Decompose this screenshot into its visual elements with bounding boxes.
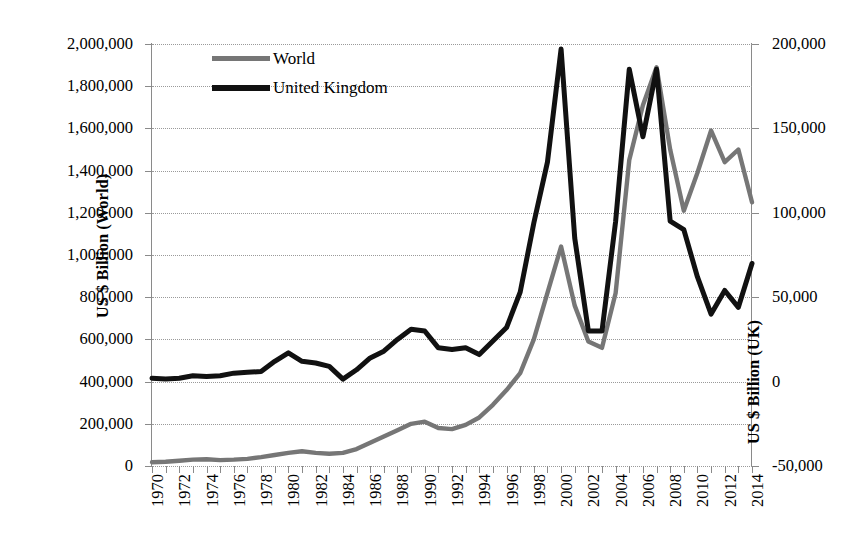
- x-tick-label: 2002: [584, 474, 604, 507]
- y-axis-right-title: US $ Billion (UK): [744, 272, 764, 492]
- x-tick: [657, 466, 658, 473]
- legend-label-world: World: [273, 49, 315, 69]
- y-tick-left: [145, 86, 152, 87]
- y-tick-label-right: 0: [772, 372, 780, 392]
- x-tick-label: 1990: [421, 474, 441, 507]
- x-tick: [329, 466, 330, 473]
- y-tick-right: [752, 128, 759, 129]
- x-tick-label: 1970: [148, 474, 168, 507]
- y-tick-left: [145, 297, 152, 298]
- x-tick-label: 2004: [612, 474, 632, 507]
- x-tick-label: 2012: [721, 474, 741, 507]
- y-tick-left: [145, 213, 152, 214]
- x-tick: [466, 466, 467, 473]
- y-tick-label-left: 200,000: [79, 414, 133, 434]
- y-tick-left: [145, 171, 152, 172]
- x-tick: [207, 466, 208, 473]
- y-axis-right-labels: -50,000050,000100,000150,000200,000: [762, 0, 862, 534]
- x-tick-label: 1974: [203, 474, 223, 507]
- x-tick-label: 1980: [284, 474, 304, 507]
- x-tick-label: 1986: [366, 474, 386, 507]
- x-tick: [670, 466, 671, 473]
- y-tick-left: [145, 44, 152, 45]
- legend-label-united-kingdom: United Kingdom: [273, 78, 388, 98]
- x-tick: [193, 466, 194, 473]
- x-tick: [561, 466, 562, 473]
- x-tick: [547, 466, 548, 473]
- legend-item-world: World: [212, 44, 388, 73]
- y-tick-label-right: 100,000: [772, 203, 826, 223]
- x-tick: [479, 466, 480, 473]
- x-tick-label: 1992: [448, 474, 468, 507]
- x-tick-label: 2006: [639, 474, 659, 507]
- x-tick: [357, 466, 358, 473]
- gridline: [152, 213, 752, 214]
- y-axis-left-title: US $ Billion (World): [93, 136, 113, 356]
- y-tick-right: [752, 213, 759, 214]
- x-tick: [411, 466, 412, 473]
- x-tick: [602, 466, 603, 473]
- gridline: [152, 297, 752, 298]
- x-tick: [643, 466, 644, 473]
- x-tick: [234, 466, 235, 473]
- legend-swatch-uk-icon: [212, 85, 270, 91]
- gridline: [152, 339, 752, 340]
- y-tick-label-right: 150,000: [772, 118, 826, 138]
- gridline: [152, 255, 752, 256]
- x-tick: [302, 466, 303, 473]
- y-tick-label-right: -50,000: [772, 456, 823, 476]
- x-tick: [588, 466, 589, 473]
- y-tick-label-right: 200,000: [772, 34, 826, 54]
- x-tick: [438, 466, 439, 473]
- x-tick: [452, 466, 453, 473]
- y-tick-left: [145, 339, 152, 340]
- x-tick-label: 1994: [475, 474, 495, 507]
- y-tick-right: [752, 44, 759, 45]
- x-tick: [738, 466, 739, 473]
- x-tick-label: 2000: [557, 474, 577, 507]
- x-tick: [425, 466, 426, 473]
- x-tick-label: 1976: [230, 474, 250, 507]
- x-tick: [152, 466, 153, 473]
- chart-container: 0200,000400,000600,000800,0001,000,0001,…: [0, 0, 862, 534]
- y-tick-label-right: 50,000: [772, 287, 817, 307]
- x-tick: [684, 466, 685, 473]
- x-tick: [261, 466, 262, 473]
- x-tick: [397, 466, 398, 473]
- y-tick-left: [145, 424, 152, 425]
- y-tick-label-left: 2,000,000: [67, 34, 133, 54]
- x-tick: [220, 466, 221, 473]
- y-tick-label-left: 1,800,000: [67, 76, 133, 96]
- x-tick-label: 1998: [530, 474, 550, 507]
- y-axis-left-labels: 0200,000400,000600,000800,0001,000,0001,…: [0, 0, 143, 534]
- y-tick-left: [145, 466, 152, 467]
- x-tick: [507, 466, 508, 473]
- x-tick-label: 1984: [339, 474, 359, 507]
- x-tick: [370, 466, 371, 473]
- gridline: [152, 424, 752, 425]
- x-tick: [493, 466, 494, 473]
- y-tick-label-left: 400,000: [79, 372, 133, 392]
- x-tick: [384, 466, 385, 473]
- gridline: [152, 382, 752, 383]
- x-tick: [616, 466, 617, 473]
- x-tick: [629, 466, 630, 473]
- x-tick-label: 1982: [312, 474, 332, 507]
- x-tick: [179, 466, 180, 473]
- x-tick: [247, 466, 248, 473]
- legend-item-united-kingdom: United Kingdom: [212, 73, 388, 102]
- x-tick: [288, 466, 289, 473]
- x-tick-label: 2008: [666, 474, 686, 507]
- x-tick: [711, 466, 712, 473]
- x-tick: [725, 466, 726, 473]
- x-tick: [697, 466, 698, 473]
- x-tick-label: 1972: [175, 474, 195, 507]
- gridline: [152, 171, 752, 172]
- y-tick-left: [145, 128, 152, 129]
- legend-swatch-world-icon: [212, 56, 270, 61]
- x-tick-label: 1996: [503, 474, 523, 507]
- x-tick: [166, 466, 167, 473]
- x-tick: [275, 466, 276, 473]
- x-tick-label: 2010: [693, 474, 713, 507]
- x-tick: [534, 466, 535, 473]
